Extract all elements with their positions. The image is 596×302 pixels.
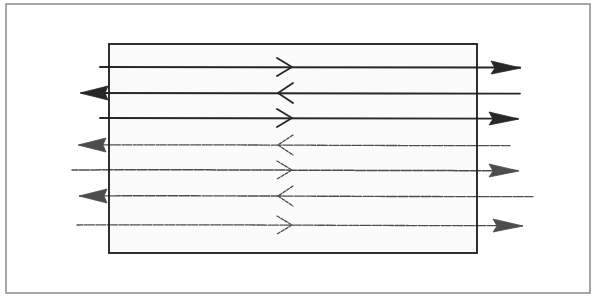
arrowhead-left-icon	[78, 138, 106, 152]
field-lines-diagram	[0, 0, 596, 302]
diagram-canvas	[0, 0, 596, 302]
arrowhead-left-icon	[80, 86, 108, 100]
arrowhead-right-icon	[489, 112, 519, 125]
line-stroke	[100, 118, 517, 119]
arrowhead-left-icon	[79, 189, 107, 203]
arrowhead-right-icon	[489, 164, 519, 177]
arrowhead-right-icon	[491, 61, 521, 74]
line-stroke	[72, 170, 517, 171]
line-stroke	[82, 93, 520, 94]
inner-box	[109, 44, 477, 253]
arrowhead-right-icon	[493, 219, 523, 232]
line-stroke	[100, 67, 520, 68]
